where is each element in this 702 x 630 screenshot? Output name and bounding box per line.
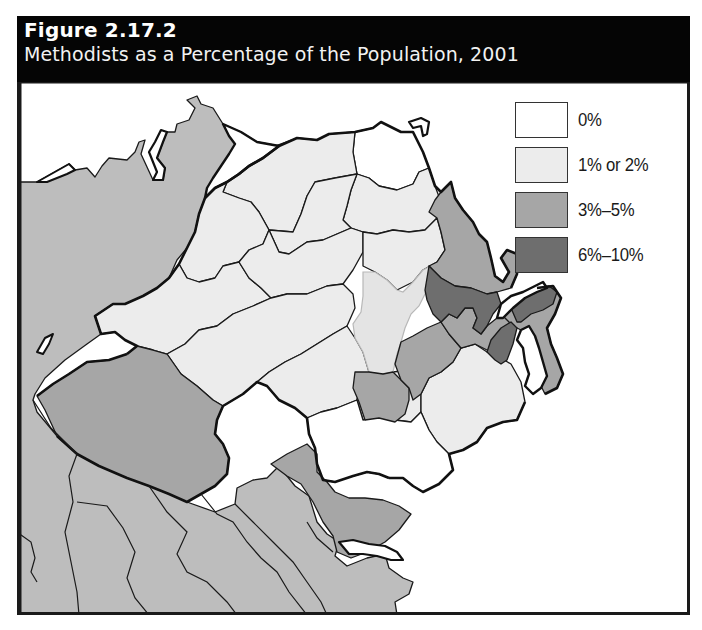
figure-number: Figure 2.17.2	[24, 18, 690, 42]
district-east-coast-north	[429, 182, 517, 294]
legend-item-1: 1% or 2%	[515, 142, 685, 187]
figure: Figure 2.17.2 Methodists as a Percentage…	[17, 16, 690, 615]
legend-label-6-10pct: 6%–10%	[578, 244, 643, 266]
legend-label-0pct: 0%	[578, 109, 602, 131]
figure-header: Figure 2.17.2 Methodists as a Percentage…	[17, 16, 690, 82]
legend-label-1-2pct: 1% or 2%	[578, 154, 648, 176]
map-legend: 0% 1% or 2% 3%–5% 6%–10%	[515, 97, 685, 277]
legend-item-0: 0%	[515, 97, 685, 142]
legend-item-2: 3%–5%	[515, 187, 685, 232]
legend-swatch-3-5pct	[515, 192, 568, 228]
legend-label-3-5pct: 3%–5%	[578, 199, 634, 221]
map-frame: 0% 1% or 2% 3%–5% 6%–10%	[17, 82, 690, 615]
legend-item-3: 6%–10%	[515, 232, 685, 277]
legend-swatch-6-10pct	[515, 237, 568, 273]
legend-swatch-0pct	[515, 102, 568, 138]
legend-swatch-1-2pct	[515, 147, 568, 183]
figure-title: Methodists as a Percentage of the Popula…	[24, 42, 690, 66]
